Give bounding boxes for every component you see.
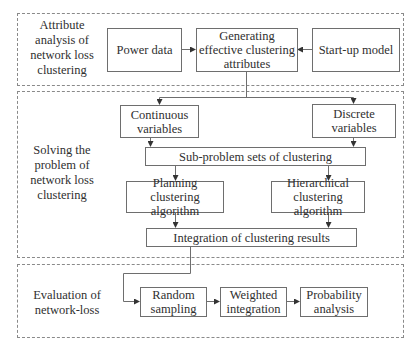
node-text: Generating [199,29,295,43]
node-text: Continuous [131,108,189,122]
node-text: Sub-problem sets of clustering [179,150,332,164]
node-text: Start-up model [319,43,394,57]
node-text: attributes [199,57,295,71]
node-discrete-variables: Discrete variables [312,104,396,138]
node-text: Planning clustering [127,176,223,204]
node-power-data: Power data [107,28,182,72]
node-text: effective clustering [199,43,295,57]
node-integration-results: Integration of clustering results [146,228,357,247]
node-text: Integration of clustering results [173,231,330,245]
node-random-sampling: Random sampling [140,287,207,317]
node-planning-algorithm: Planning clustering algorithm [126,181,224,213]
node-text: analysis [306,302,362,316]
node-subproblem-sets: Sub-problem sets of clustering [145,147,366,166]
node-startup-model: Start-up model [312,28,400,72]
node-generating-attributes: Generating effective clustering attribut… [196,28,298,72]
node-text: sampling [151,302,197,316]
node-text: variables [131,122,189,136]
node-text: Power data [117,43,173,57]
node-hierarchical-algorithm: Hierarchical clustering algorithm [271,181,365,213]
node-probability-analysis: Probability analysis [300,287,368,317]
node-continuous-variables: Continuous variables [120,105,199,138]
node-text: integration [226,302,280,316]
node-text: clustering algorithm [272,190,364,218]
node-text: Discrete [331,107,376,121]
node-text: variables [331,121,376,135]
node-text: Weighted [226,288,280,302]
node-text: Random [151,288,197,302]
node-weighted-integration: Weighted integration [220,287,287,317]
node-text: Hierarchical [272,176,364,190]
node-text: Probability [306,288,362,302]
node-text: algorithm [127,204,223,218]
